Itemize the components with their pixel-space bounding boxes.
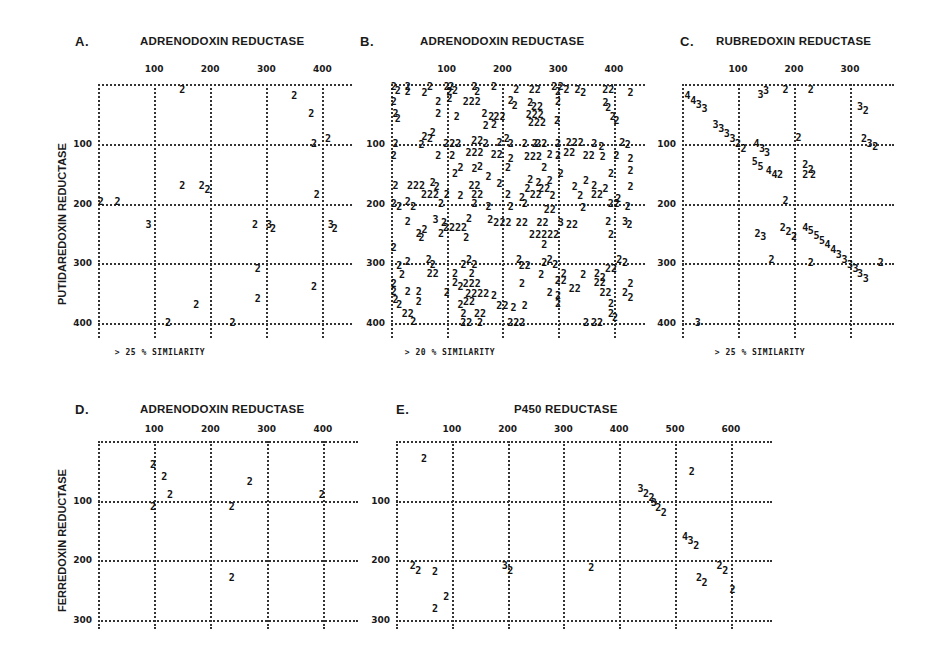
data-point: 2 [608,230,614,240]
data-point: 22 [583,151,595,161]
x-tick-label: 300 [257,424,276,434]
data-point: 2 [421,454,427,464]
similarity-caption: > 20 % SIMILARITY [405,348,495,357]
data-point: 2 [452,86,458,96]
grid-line-horizontal [682,323,894,325]
data-point: 2 [810,170,816,180]
data-point: 2 [795,133,801,143]
grid-line-vertical [731,441,733,629]
data-point: 2 [547,150,553,160]
panel-letter: D. [75,402,89,417]
data-point: 2 [508,139,514,149]
x-tick-label: 500 [666,424,685,434]
data-point: 2 [444,288,450,298]
data-point: 2 [405,287,411,297]
data-point: 2 [791,232,797,242]
data-point: 2 [179,181,185,191]
data-point: 2 [410,317,416,327]
y-tick-label: 400 [62,318,92,328]
data-point: 2 [161,472,167,482]
data-point: 2 [98,197,104,207]
data-point: 2 [522,301,528,311]
data-point: 2 [508,202,514,212]
data-point: 2 [454,112,460,122]
data-point: 2 [558,169,564,179]
data-point: 2 [588,563,594,573]
data-point: 2 [777,170,783,180]
data-point: 2 [332,224,338,234]
data-point: 2 [507,566,513,576]
grid-line-horizontal [98,441,358,443]
grid-line-vertical [508,441,510,629]
data-point: 2 [555,151,561,161]
data-point: 2 [783,85,789,95]
data-point: 2 [538,270,544,280]
y-tick-label: 300 [355,258,385,268]
grid-line-horizontal [98,560,358,562]
data-point: 2 [452,169,458,179]
data-point: 22 [544,205,556,215]
data-point: 2 [392,181,398,191]
data-point: 2 [435,97,441,107]
grid-line-horizontal [98,204,352,206]
y-tick-label: 400 [646,318,676,328]
data-point: 2 [391,97,397,107]
data-point: 2 [555,97,561,107]
grid-line-vertical [210,84,212,338]
grid-line-vertical [850,84,852,338]
data-point: 2 [627,293,633,303]
data-point: 2 [614,151,620,161]
data-point: 3 [863,274,869,284]
data-point: 22222 [529,230,559,240]
x-tick-label: 400 [313,64,332,74]
data-point: 22 [491,150,503,160]
x-tick-label: 300 [841,64,860,74]
data-point: 2 [270,224,276,234]
data-point: 3 [558,218,564,228]
data-point: 2 [311,282,317,292]
data-point: 3 [433,215,439,225]
data-point: 22 [563,148,575,158]
data-point: 2 [179,85,185,95]
data-point: 2 [591,139,597,149]
data-point: 22 [535,139,547,149]
data-point: 22 [519,261,531,271]
y-tick-label: 100 [62,139,92,149]
grid-line-vertical [323,441,325,629]
data-point: 2 [485,172,491,182]
data-point: 2 [308,109,314,119]
x-tick-label: 100 [145,64,164,74]
data-point: 2 [415,566,421,576]
x-tick-label: 200 [493,64,512,74]
data-point: 222 [463,97,481,107]
grid-line-vertical [210,441,212,629]
y-tick-label: 300 [360,615,390,625]
data-point: 22 [516,218,528,228]
data-point: 2 [230,318,236,328]
data-point: 2 [405,87,411,97]
data-point: 2 [443,592,449,602]
data-point: 2 [522,199,528,209]
data-point: 2 [229,502,235,512]
data-point: 2 [563,85,569,95]
data-point: 5 [757,162,763,172]
panel-title: P450 REDUCTASE [514,403,618,415]
data-point: 222 [443,139,461,149]
data-point: 2 [115,197,121,207]
data-point: 2 [319,490,325,500]
data-point: 2 [458,191,464,201]
data-point: 222 [507,318,525,328]
data-point: 2 [435,109,441,119]
data-point: 2 [522,139,528,149]
x-tick-label: 600 [721,424,740,434]
data-point: 2 [325,134,331,144]
x-tick-label: 300 [257,64,276,74]
data-point: 2 [541,240,547,250]
data-point: 2 [485,202,491,212]
x-tick-label: 400 [313,424,332,434]
data-point: 2 [487,215,493,225]
data-point: 2 [577,191,583,201]
grid-line-horizontal [98,620,358,622]
grid-line-vertical [452,441,454,629]
data-point: 2 [614,116,620,126]
